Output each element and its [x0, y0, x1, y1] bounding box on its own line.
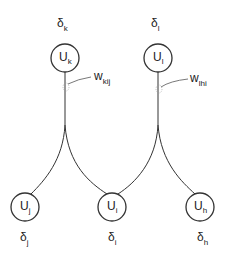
node-h: Uh δh — [186, 193, 214, 247]
node-i: Ui δi — [98, 193, 126, 247]
edge-k-i — [65, 125, 107, 194]
node-l: δl Ul — [144, 16, 172, 72]
delta-label-k: δk — [57, 16, 69, 33]
node-k: δk Uk — [51, 16, 79, 72]
weight-label-lhi: wlhi — [189, 71, 207, 88]
node-j: Uj δj — [11, 193, 39, 247]
edges — [31, 72, 195, 194]
delta-label-j: δj — [20, 230, 29, 247]
leader-w-lhi — [161, 79, 188, 87]
delta-label-h: δh — [197, 230, 208, 247]
edge-l-i — [118, 72, 158, 194]
edge-k-j — [31, 72, 65, 194]
delta-label-l: δl — [151, 16, 160, 33]
edge-l-h — [158, 125, 195, 194]
weight-label-kij: wkij — [93, 69, 110, 86]
network-diagram: wkij wlhi δk Uk δl Ul Uj δj — [0, 0, 226, 263]
leader-w-kij — [68, 77, 91, 84]
delta-label-i: δi — [108, 230, 117, 247]
synapse-lhi-icon — [156, 85, 162, 93]
